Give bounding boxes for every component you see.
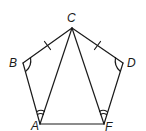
label-f: F <box>105 120 113 131</box>
angle-arc-a-2 <box>37 110 45 111</box>
label-d: D <box>127 56 136 70</box>
label-c: C <box>67 11 76 25</box>
label-a: A <box>30 119 39 131</box>
tick-mark-cb <box>45 42 51 50</box>
angle-arc-a-1 <box>38 114 44 115</box>
angle-arc-f-2 <box>100 110 108 111</box>
pentagon-diagram: C B D A F <box>0 0 146 131</box>
label-b: B <box>9 56 17 70</box>
angle-arc-f-1 <box>101 114 107 115</box>
tick-mark-cd <box>95 42 101 50</box>
